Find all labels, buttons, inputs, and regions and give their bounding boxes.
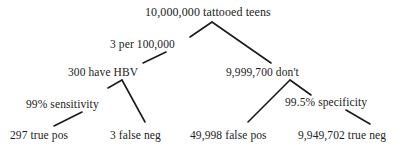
edge-root-to-infected-upper: [190, 22, 212, 37]
root-node-label: 10,000,000 tattooed teens: [145, 6, 271, 19]
tree-edges: [0, 0, 413, 149]
infected-node-label: 300 have HBV: [68, 66, 138, 79]
edge-root-to-not-infected: [212, 22, 271, 63]
specificity-edge-label: 99.5% specificity: [285, 96, 367, 109]
not-infected-node-label: 9,999,700 don't: [226, 66, 299, 79]
prevalence-edge-label: 3 per 100,000: [110, 38, 175, 51]
edge-notinfected-to-trueneg-upper: [290, 80, 311, 95]
edge-infected-to-falseneg: [122, 80, 145, 122]
edge-notinfected-to-falsepos: [248, 80, 290, 122]
false-pos-leaf-label: 49,998 false pos: [190, 129, 267, 142]
true-neg-leaf-label: 9,949,702 true neg: [298, 129, 386, 142]
edge-notinfected-to-trueneg-lower: [346, 110, 370, 124]
edge-infected-to-truepos-lower: [54, 112, 82, 126]
edge-root-to-infected-lower: [143, 52, 166, 63]
false-neg-leaf-label: 3 false neg: [110, 129, 161, 142]
true-pos-leaf-label: 297 true pos: [10, 129, 68, 142]
edge-infected-to-truepos-upper: [108, 80, 122, 88]
sensitivity-edge-label: 99% sensitivity: [26, 98, 99, 111]
